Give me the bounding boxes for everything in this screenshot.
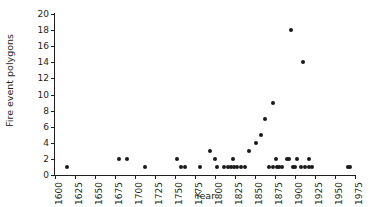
x-tick (75, 175, 76, 179)
data-point (310, 165, 314, 169)
x-tick (255, 175, 256, 179)
data-point (254, 141, 258, 145)
data-point (183, 165, 187, 169)
x-tick (95, 175, 96, 179)
x-tick-label: 1975 (355, 182, 364, 205)
y-tick-label: 14 (38, 58, 49, 67)
data-point (208, 149, 212, 153)
y-tick-label: 20 (38, 10, 49, 19)
y-tick (51, 62, 55, 63)
y-tick (51, 78, 55, 79)
y-tick (51, 159, 55, 160)
data-point (243, 165, 247, 169)
data-point (125, 157, 129, 161)
data-point (65, 165, 69, 169)
data-point (293, 165, 297, 169)
x-tick (155, 175, 156, 179)
x-tick (295, 175, 296, 179)
scatter-chart-figure: Fire event polygons 02468101214161820 16… (0, 0, 370, 207)
data-point (239, 165, 243, 169)
y-tick-label: 2 (43, 155, 49, 164)
y-tick-label: 10 (38, 91, 49, 100)
x-axis-title: Year (55, 190, 355, 201)
data-point (271, 165, 275, 169)
data-point (348, 165, 352, 169)
x-tick (215, 175, 216, 179)
y-tick (51, 143, 55, 144)
x-tick (315, 175, 316, 179)
x-tick (195, 175, 196, 179)
y-tick-label: 12 (38, 74, 49, 83)
data-point (235, 165, 239, 169)
x-tick (235, 175, 236, 179)
data-point (213, 157, 217, 161)
data-point (301, 60, 305, 64)
data-point (198, 165, 202, 169)
x-tick (55, 175, 56, 179)
y-tick (51, 95, 55, 96)
x-tick (355, 175, 356, 179)
data-point (259, 133, 263, 137)
y-tick (51, 127, 55, 128)
x-tick (175, 175, 176, 179)
x-axis-line (54, 175, 356, 176)
y-axis-title: Fire event polygons (2, 0, 16, 161)
y-tick (51, 46, 55, 47)
x-tick (335, 175, 336, 179)
y-tick-label: 6 (43, 123, 49, 132)
y-tick-label: 8 (43, 107, 49, 116)
data-point (280, 165, 284, 169)
y-tick-label: 0 (43, 171, 49, 180)
data-point (271, 101, 275, 105)
data-point (215, 165, 219, 169)
x-tick (115, 175, 116, 179)
y-tick (51, 30, 55, 31)
y-tick (51, 111, 55, 112)
y-tick-label: 18 (38, 26, 49, 35)
data-point (274, 157, 278, 161)
data-point (231, 157, 235, 161)
y-tick-label: 4 (43, 139, 49, 148)
data-point (247, 149, 251, 153)
y-tick-label: 16 (38, 42, 49, 51)
data-point (307, 157, 311, 161)
data-point (287, 157, 291, 161)
y-tick (51, 14, 55, 15)
data-point (117, 157, 121, 161)
y-axis-title-text: Fire event polygons (4, 34, 15, 127)
data-point (295, 157, 299, 161)
data-point (303, 165, 307, 169)
data-point (289, 28, 293, 32)
data-point (263, 117, 267, 121)
plot-area: 02468101214161820 1600162516501675170017… (55, 14, 355, 175)
data-point (175, 157, 179, 161)
x-tick (135, 175, 136, 179)
data-point (143, 165, 147, 169)
x-tick (275, 175, 276, 179)
